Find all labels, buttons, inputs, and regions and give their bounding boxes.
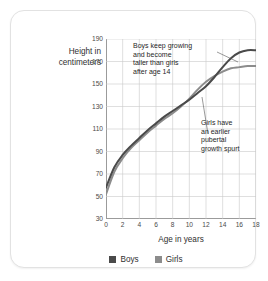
x-tick-label: 8 — [171, 222, 175, 229]
x-tick-label: 0 — [104, 222, 108, 229]
x-tick-label: 16 — [236, 222, 243, 229]
x-tick-label: 12 — [202, 222, 209, 229]
y-tick-label: 190 — [92, 36, 103, 43]
x-axis-title: Age in years — [106, 235, 256, 244]
x-tick-label: 6 — [154, 222, 158, 229]
y-axis-title-line1: Height in — [29, 47, 101, 58]
legend-swatch-girls-icon — [155, 256, 162, 263]
y-tick-label: 130 — [92, 103, 103, 110]
legend-label-girls: Girls — [166, 255, 183, 264]
chart-card: Height in centimeters 305070901101301501… — [10, 10, 256, 268]
legend-label-boys: Boys — [120, 255, 138, 264]
y-tick-label: 90 — [96, 148, 103, 155]
chart-page: Height in centimeters 305070901101301501… — [0, 0, 268, 281]
y-axis-title-line2: centimeters — [29, 58, 101, 69]
x-tick-label: 18 — [252, 222, 259, 229]
y-tick-label: 50 — [96, 193, 103, 200]
y-axis-title: Height in centimeters — [29, 47, 101, 68]
x-tick-label: 14 — [219, 222, 226, 229]
annotation-boys: Boys keep growing and become taller than… — [133, 42, 217, 76]
chart-legend: Boys Girls — [71, 255, 221, 264]
y-tick-label: 150 — [92, 81, 103, 88]
y-tick-label: 30 — [96, 216, 103, 223]
y-tick-label: 70 — [96, 171, 103, 178]
legend-item-boys: Boys — [109, 255, 138, 264]
legend-swatch-boys-icon — [109, 256, 116, 263]
legend-item-girls: Girls — [155, 255, 183, 264]
x-tick-label: 4 — [137, 222, 141, 229]
x-tick-label: 10 — [186, 222, 193, 229]
y-tick-label: 110 — [92, 126, 103, 133]
y-tick-label: 170 — [92, 58, 103, 65]
annotation-girls: Girls have an earlier pubertal growth sp… — [201, 119, 261, 153]
x-tick-label: 2 — [121, 222, 125, 229]
